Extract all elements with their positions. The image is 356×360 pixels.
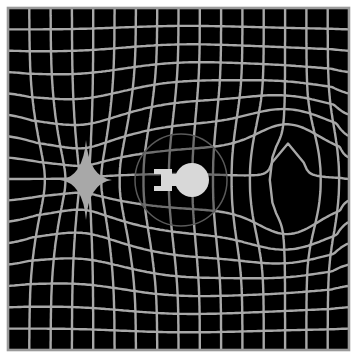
warp-diagram	[0, 0, 356, 360]
warp-grid-canvas	[0, 0, 356, 360]
